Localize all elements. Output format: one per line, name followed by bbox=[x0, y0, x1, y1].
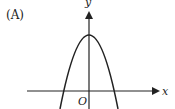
option-label: (A) bbox=[6, 8, 24, 22]
parabola-diagram: (A) y x O bbox=[0, 0, 175, 109]
y-axis-label: y bbox=[84, 0, 92, 9]
origin-label: O bbox=[78, 95, 87, 108]
x-axis-label: x bbox=[162, 85, 169, 98]
